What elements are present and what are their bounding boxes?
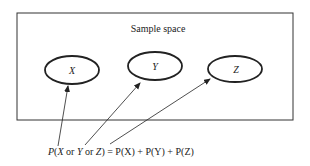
probability-formula: P(X or Y or Z) = P(X) + P(Y) + P(Z): [47, 146, 194, 158]
event-z-label: Z: [233, 64, 239, 75]
event-x-label: X: [68, 65, 76, 76]
sample-space-diagram: Sample space X Y Z P(X or Y or Z) = P(X)…: [0, 0, 310, 166]
sample-space-label: Sample space: [131, 23, 186, 34]
